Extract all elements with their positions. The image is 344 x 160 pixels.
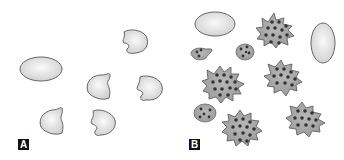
oval-cell [20,57,62,81]
panel-label-a: A [18,139,29,150]
panel-a [20,30,162,135]
activated-cell [264,60,302,96]
panel-label-b: B [189,139,200,150]
oval-cell [311,23,335,63]
round-granule-cell [194,104,216,122]
panel-b [191,12,335,146]
bean-cell [123,30,148,53]
activated-cell [256,13,294,48]
bean-cell [40,108,63,134]
activated-cell [286,102,325,137]
bean-cell [137,76,162,100]
bean-cell [91,110,115,135]
activated-cell [222,110,262,146]
bean-cell [87,74,110,100]
cell-diagram [0,0,344,160]
oval-cell [195,12,235,36]
activated-cell [202,66,244,103]
